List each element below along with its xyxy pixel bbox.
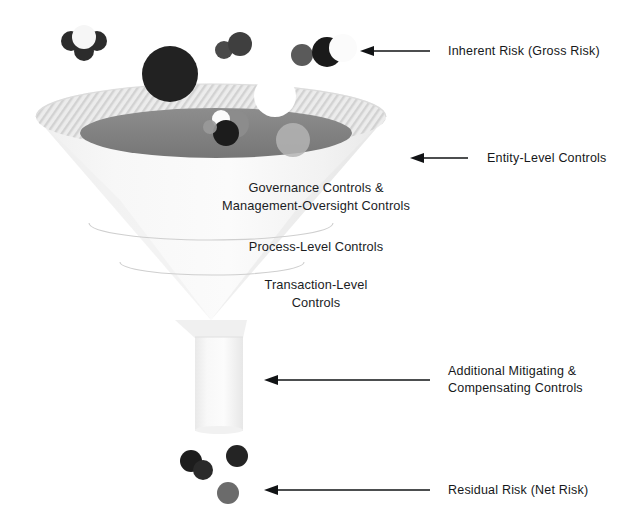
arrow-residual-risk [264, 485, 430, 495]
callout-entity-level-controls: Entity-Level Controls [487, 150, 607, 167]
diagram-canvas: Governance Controls & Management-Oversig… [0, 0, 632, 528]
arrow-inherent-risk [360, 46, 430, 56]
balls-residual [180, 445, 248, 504]
funnel-label-transaction: Transaction-Level Controls [0, 276, 632, 312]
callout-inherent-risk: Inherent Risk (Gross Risk) [448, 43, 600, 60]
balls-inherent-middle [215, 32, 252, 59]
balls-inherent-left [61, 25, 107, 61]
callout-additional-mitigating: Additional Mitigating & Compensating Con… [448, 363, 583, 397]
ball-inherent-large [142, 46, 198, 102]
funnel-illustration [0, 0, 632, 528]
callout-residual-risk: Residual Risk (Net Risk) [448, 482, 588, 499]
funnel-stem [175, 320, 247, 434]
funnel-label-process: Process-Level Controls [0, 238, 632, 256]
arrow-additional-mitigating [264, 375, 430, 385]
funnel-label-governance: Governance Controls & Management-Oversig… [0, 179, 632, 215]
arrow-entity-level-controls [410, 153, 468, 163]
rim-notch-cutout [254, 75, 296, 117]
balls-inherent-right [291, 34, 357, 67]
